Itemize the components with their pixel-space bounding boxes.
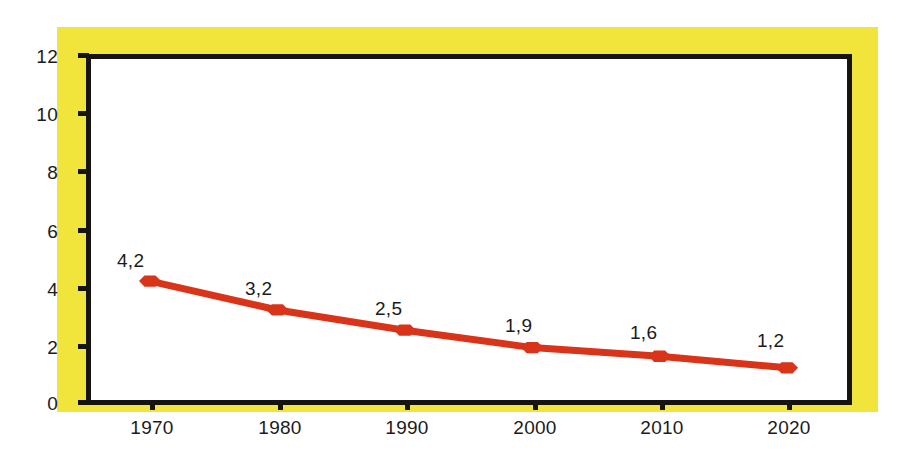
y-tick-mark-10	[78, 111, 89, 116]
y-tick-label-4: 4	[18, 279, 58, 301]
y-tick-mark-12	[78, 53, 89, 58]
x-tick-mark-1970	[150, 400, 155, 410]
y-tick-mark-8	[78, 169, 89, 174]
x-tick-label-1980: 1980	[245, 417, 315, 439]
x-tick-label-2000: 2000	[500, 417, 570, 439]
y-tick-label-8: 8	[18, 162, 58, 184]
y-tick-label-2: 2	[18, 337, 58, 359]
x-tick-mark-2010	[660, 400, 665, 410]
data-label-2020: 1,2	[757, 330, 784, 352]
x-tick-label-2020: 2020	[754, 417, 824, 439]
y-tick-mark-6	[78, 228, 89, 233]
data-label-1990: 2,5	[375, 298, 402, 320]
y-tick-label-0: 0	[18, 393, 58, 415]
data-label-1970: 4,2	[117, 250, 144, 272]
x-tick-mark-2000	[533, 400, 538, 410]
y-tick-label-12: 12	[18, 46, 58, 68]
x-tick-mark-2020	[787, 400, 792, 410]
plot-frame-border	[86, 54, 852, 405]
data-label-1980: 3,2	[245, 278, 272, 300]
y-tick-mark-4	[78, 286, 89, 291]
y-tick-mark-2	[78, 344, 89, 349]
x-tick-mark-1990	[405, 400, 410, 410]
y-tick-mark-0	[78, 400, 89, 405]
x-tick-mark-1980	[278, 400, 283, 410]
x-tick-label-2010: 2010	[627, 417, 697, 439]
data-label-2000: 1,9	[505, 315, 532, 337]
y-tick-label-10: 10	[18, 104, 58, 126]
y-tick-label-6: 6	[18, 221, 58, 243]
data-label-2010: 1,6	[630, 322, 657, 344]
x-tick-label-1970: 1970	[117, 417, 187, 439]
x-tick-label-1990: 1990	[372, 417, 442, 439]
chart-figure: 12 10 8 6 4 2 0 1970 1980 1990 2000 2010…	[0, 0, 910, 461]
